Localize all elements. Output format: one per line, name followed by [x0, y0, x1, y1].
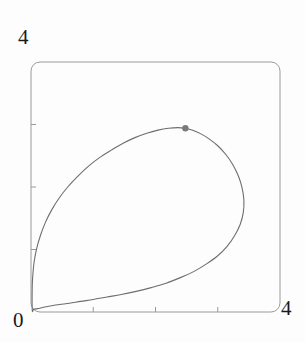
parametric-curve-figure: 4 0 4	[0, 0, 305, 343]
x-axis-max-label: 4	[281, 298, 292, 319]
curve-series	[32, 128, 244, 312]
origin-label: 0	[13, 310, 24, 331]
axis-ticks	[31, 125, 218, 313]
highlight-point	[182, 125, 188, 131]
curve-path	[32, 128, 244, 312]
plot-canvas	[0, 0, 305, 343]
y-axis-max-label: 4	[18, 27, 29, 48]
marker-points	[182, 125, 188, 131]
